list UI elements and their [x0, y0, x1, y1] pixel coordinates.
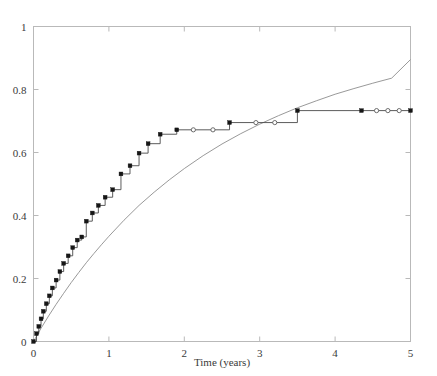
- step-estimate-curve: [34, 111, 411, 342]
- plot-frame: [34, 27, 411, 342]
- y-axis-tick-labels: 00.20.40.60.81: [13, 21, 27, 348]
- smooth-fit-curve: [34, 60, 411, 342]
- event-marker: [128, 164, 132, 168]
- x-axis-ticks: [34, 27, 411, 342]
- censored-marker: [374, 109, 378, 113]
- censored-marker: [254, 120, 258, 124]
- event-marker: [47, 294, 51, 298]
- censored-marker: [386, 109, 390, 113]
- event-marker: [158, 132, 162, 136]
- event-marker: [111, 188, 115, 192]
- event-marker: [54, 278, 58, 282]
- event-marker: [80, 235, 84, 239]
- y-tick-label: 0.6: [13, 147, 27, 159]
- x-tick-label: 1: [106, 347, 112, 359]
- censored-marker: [211, 128, 215, 132]
- x-tick-label: 4: [332, 347, 338, 359]
- event-marker: [75, 238, 79, 242]
- event-marker: [90, 211, 94, 215]
- event-marker: [32, 340, 36, 344]
- event-marker: [62, 261, 66, 265]
- y-tick-label: 0.8: [13, 84, 27, 96]
- event-marker: [296, 109, 300, 113]
- y-tick-label: 0.4: [13, 210, 27, 222]
- x-tick-label: 0: [31, 347, 37, 359]
- x-tick-label: 2: [182, 347, 188, 359]
- event-marker: [44, 302, 48, 306]
- censored-marker: [273, 120, 277, 124]
- x-axis-title: Time (years): [194, 356, 250, 369]
- chart-figure: 012345 00.20.40.60.81 Time (years): [0, 0, 437, 376]
- x-tick-label: 3: [257, 347, 263, 359]
- event-marker: [175, 128, 179, 132]
- event-marker: [37, 324, 41, 328]
- event-marker: [137, 151, 141, 155]
- x-tick-label: 5: [408, 347, 414, 359]
- censored-marker: [191, 128, 195, 132]
- event-marker: [71, 246, 75, 250]
- censored-marker: [397, 109, 401, 113]
- event-marker: [228, 121, 232, 125]
- event-marker: [103, 195, 107, 199]
- event-marker: [84, 219, 88, 223]
- event-marker: [360, 109, 364, 113]
- chart-canvas: 012345 00.20.40.60.81 Time (years): [0, 0, 437, 376]
- event-marker: [66, 254, 70, 258]
- axes-box: [34, 27, 411, 342]
- event-marker: [50, 286, 54, 290]
- event-marker: [39, 317, 43, 321]
- event-marker: [41, 309, 45, 313]
- event-marker: [35, 332, 39, 336]
- event-marker: [58, 270, 62, 274]
- event-marker: [96, 204, 100, 208]
- event-marker: [146, 142, 150, 146]
- event-marker: [409, 109, 413, 113]
- y-tick-label: 0.2: [13, 273, 27, 285]
- y-tick-label: 1: [21, 21, 27, 33]
- series-group: [32, 60, 413, 344]
- y-axis-ticks: [34, 27, 411, 342]
- event-marker: [119, 172, 123, 176]
- y-tick-label: 0: [21, 336, 27, 348]
